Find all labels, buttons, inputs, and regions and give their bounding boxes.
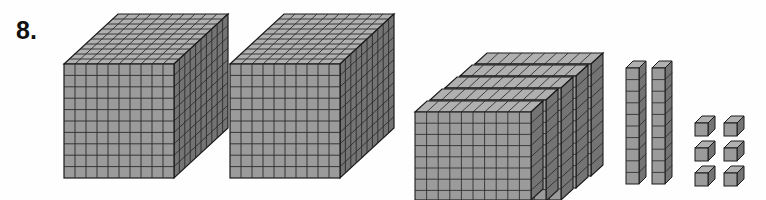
ten-rod-stack-icon [622, 57, 682, 197]
ten-rod-2 [652, 61, 672, 184]
problem-number-label: 8. [16, 18, 37, 43]
thousand-cube-icon-2 [222, 6, 402, 196]
ones-units-group [692, 112, 762, 192]
hundred-flat-stack-icon [402, 2, 617, 200]
thousands-cube-group-2 [222, 6, 402, 196]
one-unit-cluster-icon [692, 112, 762, 192]
worksheet-problem-canvas: 8. [0, 0, 766, 200]
tens-rods-group [622, 57, 682, 197]
hundreds-flats-group [402, 2, 617, 200]
thousands-cube-group-1 [56, 6, 236, 196]
one-unit-1 [695, 116, 715, 136]
thousand-cube-icon-1 [56, 6, 236, 196]
hundred-flat-1 [415, 101, 543, 200]
ten-rod-1 [626, 61, 646, 184]
one-unit-6 [724, 166, 744, 186]
one-unit-4 [724, 141, 744, 161]
one-unit-3 [695, 141, 715, 161]
one-unit-2 [724, 116, 744, 136]
one-unit-5 [695, 166, 715, 186]
